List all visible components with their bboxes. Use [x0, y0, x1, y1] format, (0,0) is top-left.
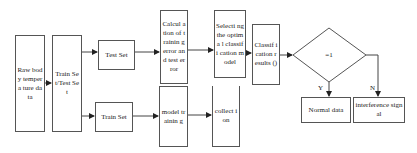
train-test-split-node: Train Set/Test Set: [52, 35, 82, 132]
classification-results-node: Classif ication results (): [252, 24, 280, 85]
test-set-node: Test Set: [98, 40, 135, 70]
error-calculation-label: Calcul ation of trainin g error and test…: [162, 20, 186, 74]
raw-data-node: Raw body tempera ture data: [15, 35, 45, 132]
model-selection-label: Selecti ng the optima l classifi cation …: [216, 22, 244, 67]
split-label: Train Set/Test Set: [54, 70, 80, 97]
decision-condition: =1: [319, 51, 339, 59]
no-branch-label: N: [370, 84, 375, 92]
collection-label: collect ion: [214, 107, 238, 125]
collection-node: collect ion: [212, 86, 240, 147]
model-training-label: model trainin g: [161, 108, 186, 126]
flowchart-canvas: Raw body tempera ture data Train Set/Tes…: [0, 0, 417, 153]
error-calculation-node: Calcul ation of trainin g error and test…: [160, 10, 188, 84]
classification-results-label: Classif ication results (): [254, 41, 278, 68]
model-selection-node: Selecti ng the optima l classifi cation …: [214, 10, 246, 78]
model-training-node: model trainin g: [159, 86, 188, 147]
train-set-node: Train Set: [95, 102, 133, 132]
normal-data-node: Normal data: [301, 97, 351, 123]
raw-data-label: Raw body tempera ture data: [17, 66, 43, 102]
interference-signal-node: interference signal: [353, 97, 405, 123]
yes-branch-label: Y: [318, 84, 323, 92]
test-set-label: Test Set: [105, 51, 127, 60]
interference-signal-label: interference signal: [355, 101, 403, 119]
train-set-label: Train Set: [101, 113, 127, 122]
normal-data-label: Normal data: [309, 106, 344, 115]
